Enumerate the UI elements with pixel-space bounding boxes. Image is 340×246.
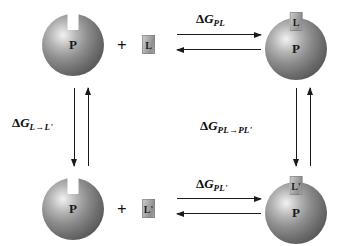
arrow-reverse-bottom [177,213,261,214]
arrowhead-right-icon [254,196,262,202]
arrowhead-left-icon [176,211,184,217]
arrowhead-left-icon [176,47,184,53]
delta-g-label-bottom: ΔGPL' [196,177,228,193]
delta-g-label-top: ΔGPL [196,12,225,28]
arrow-up-right [310,88,311,166]
subscript-left: L→L' [30,122,53,132]
delta-symbol-left: Δ [12,115,20,130]
arrowhead-up-icon [85,87,91,95]
protein-label-bottom-left: P [42,201,104,217]
arrow-reverse-top [177,49,261,50]
arrow-forward-bottom [177,198,261,199]
arrowhead-up-icon [307,87,313,95]
protein-sphere-bottom-right: L' P [265,182,327,244]
arrowhead-right-icon [254,32,262,38]
protein-label-top-left: P [42,37,104,53]
ligand-label-bound-bottom-right: L' [290,180,303,191]
protein-sphere-top-left: P [42,14,104,76]
delta-g-label-left: ΔGL→L' [12,116,53,132]
plus-sign-bottom: + [117,201,127,218]
ligand-box-bound-bottom-right: L' [290,176,303,195]
g-symbol-right: G [208,118,217,133]
protein-label-top-right: P [265,41,327,57]
arrowhead-down-icon [71,159,77,167]
thermodynamic-cycle-diagram: P + L L P ΔGPL ΔGL→L' ΔGPL→PL' [0,0,340,246]
delta-symbol-bottom: Δ [196,176,204,191]
arrow-down-right [296,88,297,166]
arrow-down-left [74,88,75,166]
delta-symbol-top: Δ [196,11,204,26]
arrowhead-down-icon [293,159,299,167]
ligand-label-top-left: L [142,39,155,50]
delta-g-label-right: ΔGPL→PL' [200,119,252,135]
arrow-forward-top [177,34,261,35]
binding-site-notch [68,177,79,194]
arrow-up-left [88,88,89,166]
protein-sphere-bottom-left: P [42,178,104,240]
ligand-label-bottom-left: L' [142,203,155,214]
subscript-bottom: PL' [214,183,228,193]
delta-symbol-right: Δ [200,118,208,133]
protein-sphere-top-right: L P [265,18,327,80]
protein-label-bottom-right: P [265,205,327,221]
binding-site-notch [68,13,79,30]
g-symbol-bottom: G [204,176,213,191]
ligand-box-top-left: L [142,35,155,54]
g-symbol-left: G [20,115,29,130]
ligand-box-bound-top-right: L [290,12,303,31]
ligand-box-bottom-left: L' [142,199,155,218]
plus-sign-top: + [117,37,127,54]
g-symbol-top: G [204,11,213,26]
ligand-label-bound-top-right: L [290,16,303,27]
subscript-right: PL→PL' [218,125,253,135]
subscript-top: PL [214,18,225,28]
